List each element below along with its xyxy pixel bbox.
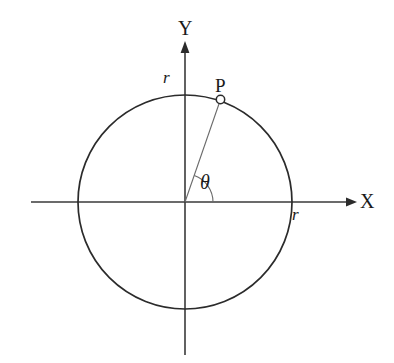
- radius-label-right: r: [292, 206, 299, 223]
- geometry-diagram: Y X r r P θ: [0, 0, 394, 363]
- y-axis-arrowhead: [181, 41, 190, 53]
- radius-label-top: r: [163, 69, 170, 86]
- x-axis-label: X: [360, 191, 374, 211]
- x-axis-arrowhead: [346, 198, 357, 207]
- angle-theta-label: θ: [200, 172, 210, 192]
- point-p-marker: [216, 95, 224, 103]
- y-axis-label: Y: [178, 18, 192, 38]
- point-p-label: P: [215, 76, 226, 95]
- diagram-canvas: [0, 0, 394, 363]
